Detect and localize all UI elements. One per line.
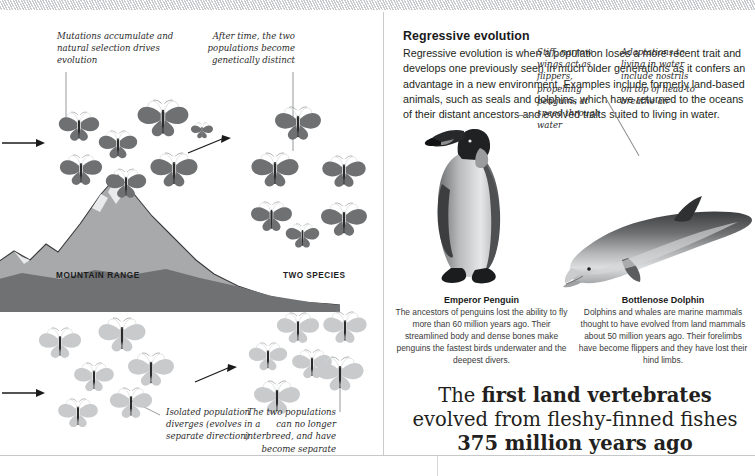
butterfly-icon — [110, 388, 152, 418]
penguin-icon — [418, 118, 526, 290]
butterfly-icon — [60, 155, 102, 185]
caption-title-penguin: Emperor Penguin — [394, 295, 569, 305]
butterfly-icon — [98, 318, 145, 352]
annotation-penguin-wings: Stiff, narrow wings act as flippers, pro… — [537, 46, 615, 131]
left-spread: Mutations accumulate and natural selecti… — [0, 12, 383, 455]
label-mountain-range: MOUNTAIN RANGE — [56, 271, 140, 280]
callout-after-time: After time, the two populations become g… — [205, 30, 295, 67]
butterfly-icon — [99, 131, 137, 158]
bottom-column-tick — [437, 456, 438, 476]
butterfly-icon — [251, 202, 292, 231]
butterfly-icon — [286, 224, 319, 248]
butterfly-icon — [277, 313, 319, 343]
dolphin-icon — [562, 192, 752, 292]
label-two-species: TWO SPECIES — [283, 271, 345, 280]
pull-quote-line-1-bold: first land vertebrates — [482, 384, 712, 407]
caption-body-dolphin: Dolphins and whales are marine mammals t… — [574, 307, 752, 367]
pull-quote: The first land vertebrates evolved from … — [395, 384, 755, 457]
butterfly-cluster-origin — [59, 100, 213, 198]
right-spread: Regressive evolution Regressive evolutio… — [384, 12, 755, 455]
bottom-margin — [0, 456, 755, 476]
caption-title-dolphin: Bottlenose Dolphin — [574, 295, 752, 305]
arrow-right-icon-2 — [188, 135, 231, 153]
pull-quote-line-2: evolved from fleshy-finned fishes — [395, 408, 755, 432]
annotation-dolphin-nostrils: Adaptations to living in water include n… — [621, 46, 701, 107]
butterfly-icon — [59, 112, 99, 141]
butterfly-icon — [128, 353, 174, 386]
magazine-spread: Mutations accumulate and natural selecti… — [0, 0, 755, 476]
butterfly-icon — [321, 203, 367, 236]
arrow-right-icon-4 — [195, 364, 237, 382]
pull-quote-line-3: 375 million years ago — [395, 432, 755, 456]
callout-no-interbreed: The two populations can no longer interb… — [240, 406, 336, 455]
arrow-right-icon — [2, 139, 45, 147]
butterfly-cluster-two-species — [251, 107, 367, 248]
butterfly-icon — [58, 399, 98, 427]
speciation-diagram — [0, 12, 383, 455]
butterfly-cluster-separate-species — [249, 312, 367, 414]
butterfly-icon — [323, 312, 366, 343]
arrow-right-icon-3 — [2, 389, 45, 397]
callout-mutations: Mutations accumulate and natural selecti… — [57, 30, 187, 67]
pull-quote-line-1: The first land vertebrates — [395, 384, 755, 408]
butterfly-icon — [150, 153, 197, 187]
mountain-range-icon — [0, 175, 340, 312]
pull-quote-line-1-plain: The — [438, 384, 481, 407]
page-title: Regressive evolution — [403, 29, 530, 43]
butterfly-icon — [251, 153, 298, 187]
butterfly-icon — [138, 100, 189, 136]
butterfly-icon — [74, 363, 114, 391]
leader-line-penguin — [518, 115, 536, 116]
caption-body-penguin: The ancestors of penguins lost the abili… — [394, 307, 569, 367]
butterfly-cluster-isolated — [39, 318, 174, 427]
butterfly-icon — [191, 123, 213, 139]
butterfly-icon — [249, 343, 287, 370]
top-hatch-strip — [0, 0, 755, 11]
butterfly-icon — [39, 328, 81, 358]
butterfly-icon — [275, 107, 321, 140]
butterfly-icon — [322, 156, 365, 187]
